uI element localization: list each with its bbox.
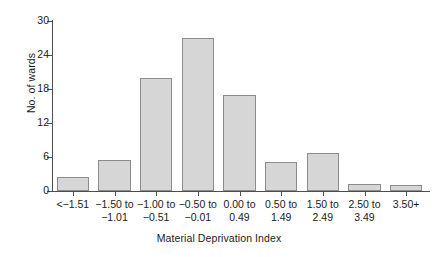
y-tick-label: 12 [37, 116, 49, 128]
y-tick-label: 24 [37, 48, 49, 60]
x-axis-line [52, 191, 430, 192]
y-axis-title: No. of wards [25, 13, 37, 153]
bar [223, 95, 256, 191]
x-tick-mark [115, 191, 116, 196]
bar [390, 185, 423, 191]
bar [348, 184, 381, 191]
bar [307, 153, 340, 191]
y-tick-label: 0 [43, 184, 49, 196]
bar [265, 162, 298, 191]
bar [98, 160, 131, 191]
x-tick-mark [73, 191, 74, 196]
bar [140, 78, 173, 191]
bar-chart-figure: No. of wards 0612182430 <−1.51−1.50 to −… [0, 0, 438, 257]
x-tick-mark [406, 191, 407, 196]
x-tick-mark [365, 191, 366, 196]
x-axis-title: Material Deprivation Index [0, 232, 438, 244]
x-tick-mark [323, 191, 324, 196]
y-tick-label: 6 [43, 150, 49, 162]
x-tick-mark [198, 191, 199, 196]
x-tick-label: 3.50+ [379, 198, 433, 211]
x-tick-mark [240, 191, 241, 196]
plot-area: 0612182430 [52, 21, 427, 191]
y-tick-label: 18 [37, 82, 49, 94]
bar [57, 177, 90, 191]
y-tick-label: 30 [37, 14, 49, 26]
x-tick-mark [156, 191, 157, 196]
bar [182, 38, 215, 191]
x-tick-mark [281, 191, 282, 196]
